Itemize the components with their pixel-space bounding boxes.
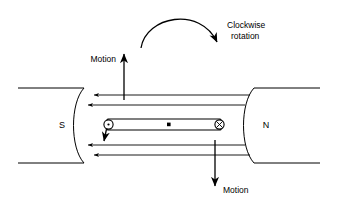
diagram-canvas: S N Motion — [0, 0, 338, 207]
motion-arrow-bottom-group: Motion — [215, 140, 249, 195]
pole-label-south: S — [59, 120, 65, 130]
motion-label-top: Motion — [90, 54, 116, 64]
left-conductor-force-arrow — [104, 129, 107, 141]
current-out-of-page-dot — [107, 123, 109, 125]
rotation-arc-path — [141, 19, 217, 48]
coil-bar — [107, 119, 221, 130]
coil-center-dot — [167, 123, 171, 127]
pole-label-north: N — [263, 120, 270, 130]
rotation-label-line1: Clockwise — [227, 20, 266, 30]
magnetic-field-diagram: S N Motion — [0, 0, 338, 207]
clockwise-arc-arrow-icon — [141, 19, 217, 48]
motion-arrow-top-group: Motion — [90, 54, 124, 100]
conductor-loop — [104, 119, 224, 130]
motion-label-bottom: Motion — [223, 185, 249, 195]
rotation-label-line2: rotation — [231, 31, 260, 41]
right-pole-piece — [244, 88, 321, 163]
left-pole-piece — [18, 88, 84, 163]
